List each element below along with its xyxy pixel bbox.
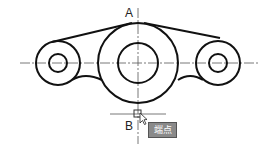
cad-drawing-canvas[interactable]: A B 端点 (0, 0, 275, 153)
point-label-b: B (125, 120, 133, 132)
cad-drawing (0, 0, 275, 153)
point-label-a: A (125, 7, 133, 19)
tangent-line-left (52, 23, 132, 42)
fillet-right (178, 76, 203, 80)
cursor-arrow-icon (140, 113, 147, 125)
tangent-line-right (144, 23, 220, 38)
snap-tooltip: 端点 (148, 122, 177, 138)
